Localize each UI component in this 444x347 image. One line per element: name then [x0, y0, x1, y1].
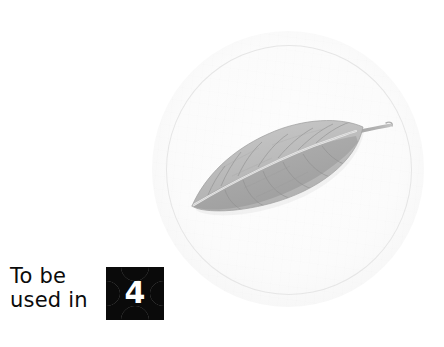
caption-line-1: To be — [10, 264, 106, 288]
caption-line-2: used in — [10, 288, 106, 312]
leaf-blade — [192, 121, 363, 211]
figure-page: To be used in 4 — [0, 0, 444, 347]
figure-caption: To be used in — [10, 264, 106, 312]
reference-number-badge[interactable]: 4 — [106, 267, 164, 320]
badge-number-label: 4 — [106, 267, 164, 320]
